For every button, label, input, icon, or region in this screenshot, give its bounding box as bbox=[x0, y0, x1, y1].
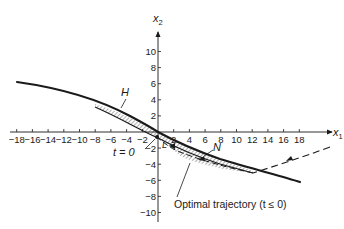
trajectory-arrow-1 bbox=[286, 156, 293, 161]
x-tick-label: −14 bbox=[40, 134, 56, 145]
x-tick-label: 4 bbox=[187, 134, 192, 145]
x-tick-label: −8 bbox=[90, 134, 101, 145]
origin-label-l: L bbox=[162, 140, 167, 150]
x-tick-label: −16 bbox=[24, 134, 40, 145]
x-tick-label: −10 bbox=[71, 134, 87, 145]
y-tick-label: 8 bbox=[151, 62, 156, 73]
y-tick-label: −6 bbox=[145, 175, 156, 186]
x-tick-label: 6 bbox=[202, 134, 207, 145]
x-tick-label: 10 bbox=[231, 134, 242, 145]
y-tick-label: 2 bbox=[151, 110, 156, 121]
y-tick-label: 6 bbox=[151, 78, 156, 89]
y-tick-label: 10 bbox=[145, 46, 156, 57]
x-tick-label: 16 bbox=[278, 134, 289, 145]
x-tick-label: −18 bbox=[9, 134, 25, 145]
x-tick-label: −12 bbox=[56, 134, 72, 145]
y-tick-label: 4 bbox=[151, 94, 156, 105]
x-tick-label: 12 bbox=[247, 134, 258, 145]
t-zero-label: t = 0 bbox=[113, 146, 136, 158]
x-tick-label: −6 bbox=[105, 134, 116, 145]
trajectory-caption-leader bbox=[177, 163, 190, 197]
trajectory-caption: Optimal trajectory (t ≤ 0) bbox=[174, 198, 287, 210]
x-axis-label: x1 bbox=[332, 126, 343, 141]
y-tick-label: −8 bbox=[145, 191, 156, 202]
y-tick-label: −2 bbox=[145, 143, 156, 154]
region-label-h: H bbox=[121, 86, 129, 98]
x-tick-label: 18 bbox=[294, 134, 305, 145]
x-tick-label: 14 bbox=[263, 134, 274, 145]
origin-point bbox=[155, 135, 159, 139]
y-axis: 108642−2−4−6−8−10 x2 bbox=[140, 12, 163, 222]
y-tick-label: −4 bbox=[145, 159, 156, 170]
y-axis-label: x2 bbox=[152, 12, 163, 27]
phase-plane-figure: −18−16−14−12−10−8−6−4−224681012141618 x1… bbox=[0, 0, 344, 229]
x-tick-label: −4 bbox=[121, 134, 132, 145]
h-leader-line bbox=[121, 99, 126, 108]
y-tick-label: −10 bbox=[140, 207, 156, 218]
region-label-n: N bbox=[213, 141, 221, 153]
